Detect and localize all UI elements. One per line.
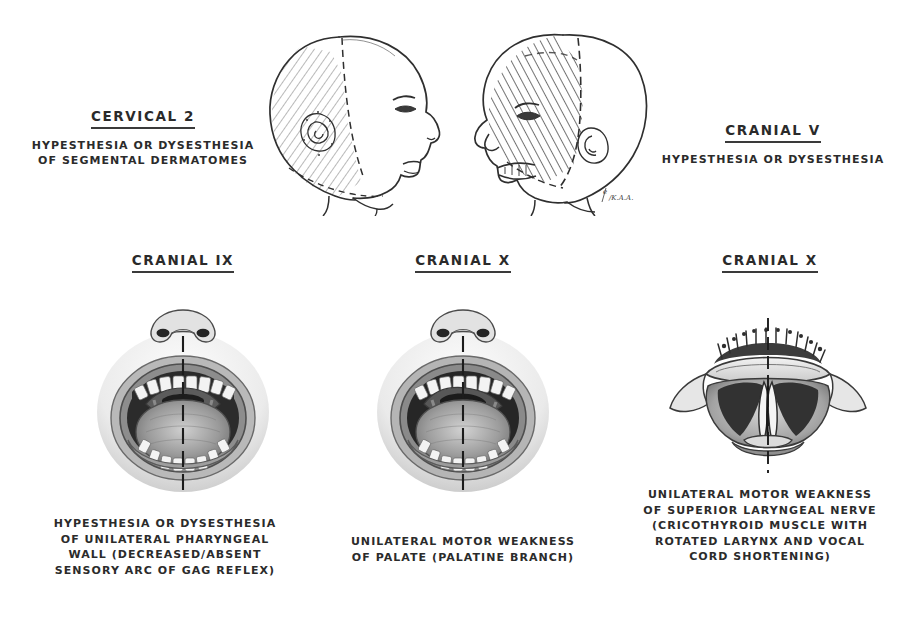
caption-line: OF UNILATERAL PHARYNGEAL xyxy=(20,532,310,548)
illustration-cervical-2-head xyxy=(243,16,483,216)
caption-line: HYPESTHESIA OR DYSESTHESIA xyxy=(648,152,898,168)
illustration-cranial-ix-mouth xyxy=(70,300,300,500)
panel-heading-cranial-x-palate: CRANIAL X xyxy=(338,252,588,273)
caption-line: SENSORY ARC OF GAG REFLEX) xyxy=(20,563,310,579)
panel-label-cervical-2: CERVICAL 2 HYPESTHESIA OR DYSESTHESIA OF… xyxy=(18,108,268,169)
heading-wrap-cranial-x-larynx: CRANIAL X xyxy=(645,252,895,273)
caption-cranial-x-larynx: UNILATERAL MOTOR WEAKNESS OF SUPERIOR LA… xyxy=(615,487,905,565)
heading-wrap-cranial-x-palate: CRANIAL X xyxy=(338,252,588,273)
caption-line: ROTATED LARYNX AND VOCAL xyxy=(615,534,905,550)
caption-line: WALL (DECREASED/ABSENT xyxy=(20,547,310,563)
figure-canvas: e /K.A.A. xyxy=(0,0,923,622)
caption-cranial-ix: HYPESTHESIA OR DYSESTHESIA OF UNILATERAL… xyxy=(20,516,310,578)
panel-caption-cranial-ix: HYPESTHESIA OR DYSESTHESIA OF UNILATERAL… xyxy=(20,516,310,578)
heading-cranial-x-larynx: CRANIAL X xyxy=(722,254,818,273)
illustration-cranial-x-mouth xyxy=(350,300,580,500)
caption-line: OF PALATE (PALATINE BRANCH) xyxy=(318,550,608,566)
caption-line: CORD SHORTENING) xyxy=(615,549,905,565)
panel-caption-cranial-x-palate: UNILATERAL MOTOR WEAKNESS OF PALATE (PAL… xyxy=(318,534,608,565)
caption-line: UNILATERAL MOTOR WEAKNESS xyxy=(615,487,905,503)
caption-cranial-x-palate: UNILATERAL MOTOR WEAKNESS OF PALATE (PAL… xyxy=(318,534,608,565)
heading-wrap-cranial-v: CRANIAL V xyxy=(648,122,898,143)
illustration-cranial-x-larynx xyxy=(658,308,878,483)
heading-cervical-2: CERVICAL 2 xyxy=(91,110,195,129)
panel-heading-cranial-ix: CRANIAL IX xyxy=(58,252,308,273)
heading-wrap-cervical-2: CERVICAL 2 xyxy=(18,108,268,129)
illustration-cranial-v-head: e /K.A.A. xyxy=(463,16,693,216)
panel-heading-cranial-x-larynx: CRANIAL X xyxy=(645,252,895,273)
caption-cervical-2: HYPESTHESIA OR DYSESTHESIA OF SEGMENTAL … xyxy=(18,138,268,169)
heading-cranial-ix: CRANIAL IX xyxy=(132,254,234,273)
panel-caption-cranial-x-larynx: UNILATERAL MOTOR WEAKNESS OF SUPERIOR LA… xyxy=(615,487,905,565)
caption-line: HYPESTHESIA OR DYSESTHESIA xyxy=(20,516,310,532)
caption-line: (CRICOTHYROID MUSCLE WITH xyxy=(615,518,905,534)
caption-cranial-v: HYPESTHESIA OR DYSESTHESIA xyxy=(648,152,898,168)
caption-line: HYPESTHESIA OR DYSESTHESIA xyxy=(18,138,268,154)
caption-line: OF SUPERIOR LARYNGEAL NERVE xyxy=(615,503,905,519)
heading-cranial-v: CRANIAL V xyxy=(725,124,821,143)
svg-text:/K.A.A.: /K.A.A. xyxy=(608,194,633,202)
heading-cranial-x-palate: CRANIAL X xyxy=(415,254,511,273)
heading-wrap-cranial-ix: CRANIAL IX xyxy=(58,252,308,273)
caption-line: UNILATERAL MOTOR WEAKNESS xyxy=(318,534,608,550)
caption-line: OF SEGMENTAL DERMATOMES xyxy=(18,153,268,169)
panel-label-cranial-v: CRANIAL V HYPESTHESIA OR DYSESTHESIA xyxy=(648,122,898,167)
